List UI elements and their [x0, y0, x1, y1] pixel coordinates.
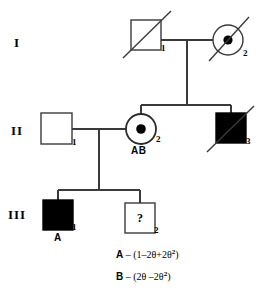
generation-label-II: II	[11, 124, 23, 137]
legend-expr-close-A: )	[175, 249, 178, 260]
individual-number-III-1: 1	[72, 223, 77, 232]
individual-number-I-1: 1	[161, 44, 166, 53]
individual-number-II-2: 2	[156, 135, 161, 144]
carrier-dot-II-2	[136, 124, 146, 134]
generation-label-I: I	[14, 36, 20, 49]
legend-row-B: B – (2θ –2θ2)	[116, 271, 171, 282]
legend-key-B: B	[116, 271, 123, 282]
genotype-tag-II-2: AB	[131, 146, 146, 156]
haplotype-tag-III-1: A	[54, 233, 62, 243]
individual-number-III-2: 2	[154, 226, 159, 235]
legend-expr-open-B: (2θ –2θ	[133, 271, 163, 282]
legend-expression-A: (1–2θ+2θ2)	[133, 249, 178, 260]
legend-dash-B: –	[126, 271, 131, 282]
legend-dash-A: –	[126, 249, 131, 260]
individual-number-II-1: 1	[72, 138, 77, 147]
unknown-status-mark-III-2: ?	[125, 212, 155, 224]
individual-number-II-3: 3	[246, 137, 251, 146]
legend-expr-open-A: (1–2θ+2θ	[133, 249, 172, 260]
legend-expression-B: (2θ –2θ2)	[133, 271, 170, 282]
individual-number-I-2: 2	[243, 49, 248, 58]
legend-row-A: A – (1–2θ+2θ2)	[116, 249, 179, 260]
legend-expr-close-B: )	[167, 271, 170, 282]
generation-label-III: III	[8, 208, 26, 221]
symbol-square-III-1	[43, 200, 73, 230]
legend-key-A: A	[116, 249, 123, 260]
pedigree-diagram: I II III 1 2 1 2 3 1 2 AB A ? A – (1–2θ+…	[0, 0, 264, 293]
symbol-square-II-1	[41, 113, 72, 144]
